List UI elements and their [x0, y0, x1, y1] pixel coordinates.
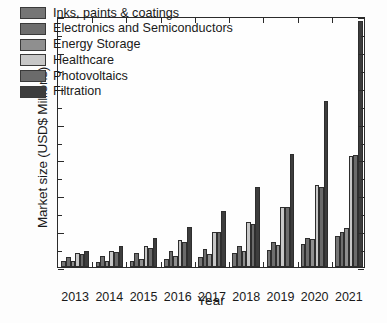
bar-group — [298, 18, 332, 267]
y-tick-minor — [58, 144, 62, 145]
legend-label: Photovoltaics — [53, 70, 128, 83]
x-tick — [126, 262, 127, 267]
y-tick-minor — [58, 251, 62, 252]
legend-label: Healthcare — [53, 54, 114, 67]
legend-swatch-icon — [20, 70, 46, 82]
legend-swatch-icon — [20, 7, 46, 19]
bar — [221, 211, 226, 267]
y-tick-major — [58, 197, 64, 198]
y-tick-major-right — [358, 197, 364, 198]
bar-group — [229, 18, 263, 267]
legend-label: Electronics and Semiconductors — [53, 22, 233, 35]
x-tick-top — [263, 18, 264, 23]
bar — [153, 238, 158, 267]
y-tick-minor — [58, 215, 62, 216]
legend-item: Electronics and Semiconductors — [20, 22, 233, 37]
legend-item: Healthcare — [20, 53, 233, 68]
y-tick-minor-right — [361, 108, 365, 109]
y-tick-minor-right — [361, 144, 365, 145]
x-tick — [298, 262, 299, 267]
legend-item: Photovoltaics — [20, 69, 233, 84]
y-tick-minor-right — [361, 179, 365, 180]
y-tick-major-right — [358, 90, 364, 91]
y-tick-major-right — [358, 233, 364, 234]
y-tick-minor-right — [361, 36, 365, 37]
x-tick — [263, 262, 264, 267]
legend-item: Energy Storage — [20, 37, 233, 52]
bar-group — [263, 18, 297, 267]
legend-label: Inks, paints & coatings — [53, 7, 179, 20]
y-tick-major — [58, 126, 64, 127]
bar — [187, 227, 192, 267]
y-tick-minor-right — [361, 251, 365, 252]
x-tick — [92, 262, 93, 267]
x-tick-top — [298, 18, 299, 23]
y-tick-major — [58, 161, 64, 162]
bar-group — [332, 18, 366, 267]
y-tick-major-right — [358, 269, 364, 270]
x-tick — [229, 262, 230, 267]
y-tick-minor-right — [361, 72, 365, 73]
bar — [119, 246, 124, 267]
legend-swatch-icon — [20, 39, 46, 51]
chart-legend: Inks, paints & coatingsElectronics and S… — [20, 6, 233, 99]
legend-label: Energy Storage — [53, 38, 141, 51]
bar — [290, 154, 295, 267]
bar — [324, 101, 329, 267]
y-tick-major — [58, 269, 64, 270]
x-axis-title: Year — [57, 293, 365, 308]
y-tick-minor-right — [361, 215, 365, 216]
legend-item: Filtration — [20, 84, 233, 99]
bar — [255, 187, 260, 267]
x-tick — [161, 262, 162, 267]
legend-swatch-icon — [20, 86, 46, 98]
x-tick — [195, 262, 196, 267]
bar — [84, 251, 89, 267]
legend-swatch-icon — [20, 54, 46, 66]
y-tick-minor — [58, 179, 62, 180]
legend-item: Inks, paints & coatings — [20, 6, 233, 21]
x-tick — [332, 262, 333, 267]
y-tick-major-right — [358, 54, 364, 55]
y-tick-major — [58, 233, 64, 234]
legend-label: Filtration — [53, 85, 101, 98]
x-tick-top — [332, 18, 333, 23]
legend-swatch-icon — [20, 23, 46, 35]
y-tick-major-right — [358, 126, 364, 127]
y-tick-major-right — [358, 18, 364, 19]
y-tick-major-right — [358, 161, 364, 162]
chart-figure: Market size (USD$ Millions) 051015202530… — [0, 0, 387, 323]
y-tick-minor — [58, 108, 62, 109]
